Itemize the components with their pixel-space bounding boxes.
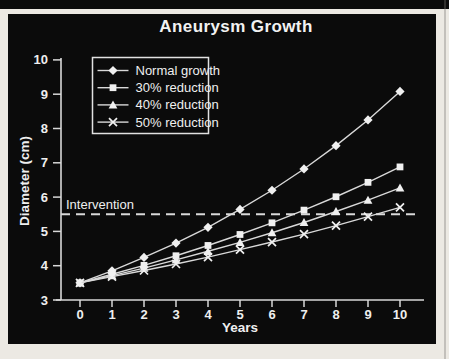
x-tick-label: 9: [364, 307, 371, 322]
data-point-40-reduction-year-9: [364, 196, 373, 204]
legend-label: Normal growth: [136, 63, 221, 78]
data-point-50-reduction-year-8: [332, 222, 340, 230]
legend-marker-square: [110, 84, 117, 91]
data-point-normal-growth-year-6: [267, 186, 276, 195]
data-point-30-reduction-year-10: [397, 164, 404, 171]
data-point-normal-growth-year-2: [139, 253, 148, 262]
y-axis-title: Diameter (cm): [17, 136, 32, 226]
x-axis-title: Years: [222, 320, 258, 335]
y-tick-label: 10: [34, 52, 48, 67]
x-tick-label: 7: [300, 307, 307, 322]
y-tick-label: 6: [41, 190, 48, 205]
x-tick-label: 3: [172, 307, 179, 322]
x-tick-label: 0: [76, 307, 83, 322]
plot-area: 345678910012345678910Diameter (cm)YearsI…: [0, 0, 449, 359]
intervention-label: Intervention: [66, 197, 134, 212]
y-tick-label: 3: [41, 293, 48, 308]
x-tick-label: 10: [393, 307, 407, 322]
data-point-50-reduction-year-10: [396, 203, 404, 211]
series-line-normal-growth: [80, 91, 400, 282]
data-point-40-reduction-year-10: [396, 183, 405, 191]
legend-label: 50% reduction: [136, 115, 219, 130]
y-tick-label: 7: [41, 155, 48, 170]
legend-label: 30% reduction: [136, 80, 219, 95]
y-tick-label: 9: [41, 87, 48, 102]
data-point-30-reduction-year-9: [365, 179, 372, 186]
x-tick-label: 1: [108, 307, 115, 322]
data-point-30-reduction-year-5: [237, 231, 244, 238]
data-point-30-reduction-year-8: [333, 193, 340, 200]
data-point-normal-growth-year-7: [299, 164, 308, 173]
x-tick-label: 2: [140, 307, 147, 322]
series-line-30-reduction: [80, 167, 400, 283]
y-tick-label: 8: [41, 121, 48, 136]
data-point-normal-growth-year-3: [171, 238, 180, 247]
data-point-30-reduction-year-6: [269, 219, 276, 226]
legend-label: 40% reduction: [136, 97, 219, 112]
y-tick-label: 5: [41, 224, 48, 239]
scanned-page: Aneurysm Growth 345678910012345678910Dia…: [0, 0, 449, 359]
data-point-normal-growth-year-4: [203, 223, 212, 232]
legend-marker-diamond: [108, 66, 117, 75]
x-tick-label: 6: [268, 307, 275, 322]
data-point-30-reduction-year-7: [301, 207, 308, 214]
x-tick-label: 4: [204, 307, 212, 322]
data-point-normal-growth-year-5: [235, 205, 244, 214]
y-tick-label: 4: [41, 258, 49, 273]
x-tick-label: 8: [332, 307, 339, 322]
